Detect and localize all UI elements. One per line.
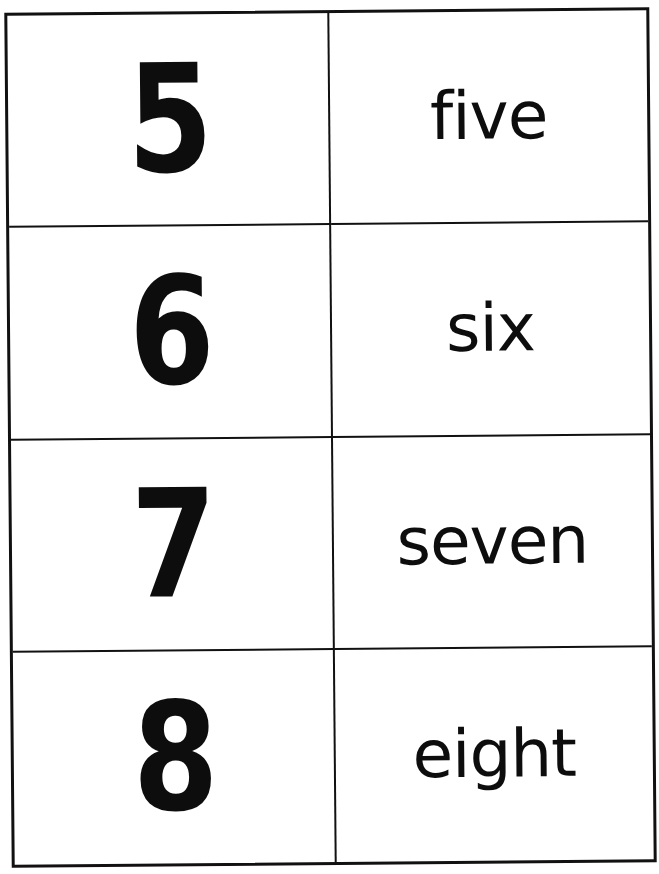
numeral: 8 xyxy=(132,682,216,833)
numeral-cell-8: 8 xyxy=(13,650,337,865)
number-word: six xyxy=(446,296,535,363)
numeral: 5 xyxy=(126,44,210,195)
word-cell-seven: seven xyxy=(333,435,652,650)
numeral: 6 xyxy=(128,256,212,407)
number-word: seven xyxy=(396,507,588,575)
flashcard-sheet: 5 five 6 six 7 seven 8 eight xyxy=(4,7,656,868)
numeral-cell-6: 6 xyxy=(9,225,333,440)
word-cell-eight: eight xyxy=(335,647,654,862)
number-word: five xyxy=(430,83,548,150)
number-word: eight xyxy=(412,721,576,788)
word-cell-six: six xyxy=(331,222,650,437)
numeral: 7 xyxy=(130,469,214,620)
numeral-cell-5: 5 xyxy=(7,13,331,228)
word-cell-five: five xyxy=(329,10,648,225)
number-word-table: 5 five 6 six 7 seven 8 eight xyxy=(4,7,656,868)
numeral-cell-7: 7 xyxy=(11,437,335,652)
